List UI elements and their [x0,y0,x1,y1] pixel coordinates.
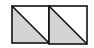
squares-group [12,6,87,44]
split-square-2 [49,6,87,44]
diagram-canvas [0,0,94,48]
split-square-1 [12,6,49,43]
two-split-squares-diagram [0,0,94,48]
